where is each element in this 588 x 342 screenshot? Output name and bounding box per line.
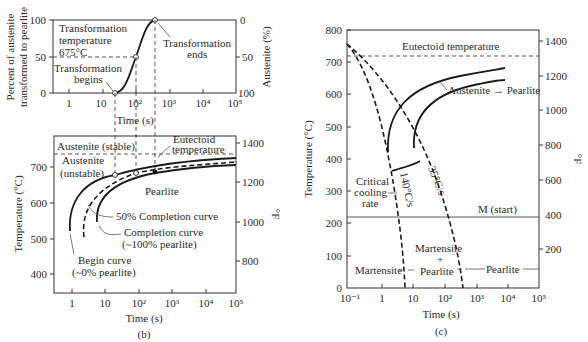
svg-text:Transformation: Transformation xyxy=(59,22,128,34)
svg-text:10⁵: 10⁵ xyxy=(532,292,547,304)
svg-text:50% Completion curve: 50% Completion curve xyxy=(116,210,218,222)
svg-text:1: 1 xyxy=(66,97,72,109)
c-xlabel: Time (s) xyxy=(422,308,460,321)
c-bottom-curve xyxy=(392,161,420,171)
svg-text:(~100% pearlite): (~100% pearlite) xyxy=(122,238,197,251)
b-ylabel: Temperature (°C) xyxy=(12,175,25,253)
svg-text:1: 1 xyxy=(379,292,385,304)
svg-text:100: 100 xyxy=(326,250,343,262)
svg-text:temperature: temperature xyxy=(59,34,112,46)
svg-text:10⁵: 10⁵ xyxy=(228,97,243,109)
svg-text:1200: 1200 xyxy=(545,70,568,82)
a-ytick-right-0: 0 xyxy=(240,14,246,26)
c-cooling-140 xyxy=(347,44,405,288)
svg-text:10: 10 xyxy=(100,297,112,309)
svg-text:10³: 10³ xyxy=(470,292,485,304)
svg-text:1000: 1000 xyxy=(242,216,265,228)
svg-text:800: 800 xyxy=(545,139,562,151)
svg-text:10⁴: 10⁴ xyxy=(196,97,211,109)
svg-text:10⁴: 10⁴ xyxy=(501,292,516,304)
a-ylabel-2: transformed to pearlite xyxy=(17,7,29,107)
svg-text:Begin curve: Begin curve xyxy=(78,254,132,266)
svg-text:200: 200 xyxy=(326,217,343,229)
svg-text:35°C/s: 35°C/s xyxy=(426,164,448,196)
svg-text:Pearlite: Pearlite xyxy=(145,185,179,197)
svg-text:10⁵: 10⁵ xyxy=(229,297,244,309)
a-xlabel: Time (s) xyxy=(116,114,154,127)
b-ylabel-right: °F xyxy=(270,209,282,220)
c-yticks-right: 1400 1200 1000 800 600 400 200 xyxy=(539,35,568,255)
a-ylabel-right: Austenite (%) xyxy=(260,26,273,88)
svg-text:Austenite: Austenite xyxy=(62,154,104,166)
c-caption: (c) xyxy=(435,325,448,338)
svg-text:500: 500 xyxy=(31,233,48,245)
svg-text:1: 1 xyxy=(69,297,75,309)
svg-text:1400: 1400 xyxy=(545,35,568,47)
svg-text:1400: 1400 xyxy=(242,137,265,149)
svg-text:300: 300 xyxy=(326,185,343,197)
a-ytick-0: 0 xyxy=(41,87,47,99)
svg-text:10⁴: 10⁴ xyxy=(199,297,214,309)
c-begin-curve xyxy=(388,68,505,152)
svg-text:400: 400 xyxy=(31,268,48,280)
svg-text:Austenite → Pearlite: Austenite → Pearlite xyxy=(448,84,540,96)
svg-text:140°C/s: 140°C/s xyxy=(398,171,417,208)
svg-text:Eutectoid temperature: Eutectoid temperature xyxy=(402,40,500,52)
svg-text:675°C: 675°C xyxy=(59,46,87,58)
a-ytick-100: 100 xyxy=(30,14,47,26)
svg-text:Pearlite: Pearlite xyxy=(486,263,520,275)
svg-text:+: + xyxy=(437,253,443,265)
svg-text:10²: 10² xyxy=(438,292,453,304)
chart-a: 100 50 0 0 50 100 1 10 10² 10³ 10⁴ 10⁵ T… xyxy=(4,7,273,127)
svg-text:ends: ends xyxy=(187,48,207,60)
svg-text:Austenite (stable): Austenite (stable) xyxy=(57,140,135,153)
svg-text:temperature: temperature xyxy=(172,143,225,155)
svg-text:10: 10 xyxy=(408,292,420,304)
a-ytick-50: 50 xyxy=(35,51,47,63)
svg-text:Martensite: Martensite xyxy=(355,264,402,276)
svg-text:(unstable): (unstable) xyxy=(60,167,104,180)
svg-text:700: 700 xyxy=(326,56,343,68)
svg-text:Completion curve: Completion curve xyxy=(124,226,203,238)
a-xticks: 1 10 10² 10³ 10⁴ 10⁵ xyxy=(66,89,242,109)
svg-text:400: 400 xyxy=(545,209,562,221)
svg-text:10: 10 xyxy=(96,97,108,109)
svg-text:800: 800 xyxy=(242,255,259,267)
svg-text:600: 600 xyxy=(31,197,48,209)
c-ylabel-right: °F xyxy=(572,154,584,165)
b-caption: (b) xyxy=(138,328,151,341)
svg-text:800: 800 xyxy=(326,24,343,36)
svg-text:10⁻¹: 10⁻¹ xyxy=(340,292,360,304)
b-xlabel: Time (s) xyxy=(125,312,163,325)
svg-text:10³: 10³ xyxy=(162,97,177,109)
svg-text:begins: begins xyxy=(74,73,103,85)
svg-text:1000: 1000 xyxy=(545,104,568,116)
svg-text:(~0% pearlite): (~0% pearlite) xyxy=(72,266,136,279)
c-xticks: 10⁻¹ 1 10 10² 10³ 10⁴ 10⁵ xyxy=(340,284,547,304)
c-ylabel: Temperature (°C) xyxy=(302,120,315,198)
svg-text:600: 600 xyxy=(326,88,343,100)
svg-text:600: 600 xyxy=(545,174,562,186)
svg-text:rate: rate xyxy=(362,197,379,209)
svg-text:500: 500 xyxy=(326,121,343,133)
a-ylabel-1: Percent of austenite xyxy=(4,14,16,101)
svg-text:10²: 10² xyxy=(128,97,143,109)
a-ytick-right-50: 50 xyxy=(242,51,254,63)
svg-text:200: 200 xyxy=(545,243,562,255)
svg-text:Pearlite: Pearlite xyxy=(420,265,454,277)
svg-text:400: 400 xyxy=(326,153,343,165)
chart-c: 800 700 600 500 400 300 200 100 0 1400 1… xyxy=(302,24,584,338)
svg-text:10²: 10² xyxy=(132,297,147,309)
svg-text:1200: 1200 xyxy=(242,176,265,188)
svg-text:M (start): M (start) xyxy=(478,203,517,216)
svg-text:700: 700 xyxy=(31,161,48,173)
chart-b: 700 600 500 400 1400 1200 1000 800 1 10 … xyxy=(12,133,282,341)
figure-canvas: 100 50 0 0 50 100 1 10 10² 10³ 10⁴ 10⁵ T… xyxy=(0,0,588,342)
svg-text:10³: 10³ xyxy=(165,297,180,309)
